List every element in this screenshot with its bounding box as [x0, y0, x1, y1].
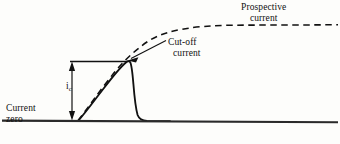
prospective-current-label-line1: Prospective — [241, 2, 286, 12]
prospective-current-label: Prospective current — [241, 2, 286, 24]
current-zero-label-line2: zero — [6, 114, 36, 125]
prospective-current-label-line2: current — [241, 13, 286, 24]
current-zero-axis — [2, 121, 338, 123]
cut-off-current-label-line2: current — [168, 48, 201, 59]
ic-arrow-head-down — [69, 111, 75, 121]
current-zero-label: Current zero — [6, 103, 36, 125]
current-zero-label-line1: Current — [6, 103, 36, 113]
cut-off-current-label-line1: Cut-off — [168, 37, 197, 47]
ic-arrow-head-up — [69, 62, 75, 72]
diagram-canvas — [0, 0, 340, 144]
ic-symbol-label: ic — [66, 81, 72, 93]
ic-symbol-subscript: c — [69, 85, 72, 93]
cut-off-current-label: Cut-off current — [168, 37, 201, 59]
cut-off-current-diagram: Prospective current Cut-off current Curr… — [0, 0, 340, 144]
cut-off-current-curve — [79, 61, 171, 121]
